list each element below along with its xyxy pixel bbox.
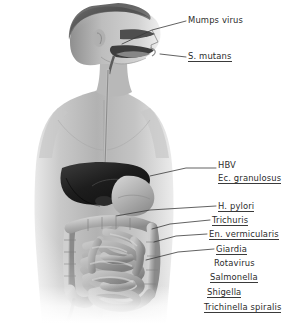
label-hbv: HBV bbox=[218, 161, 236, 169]
gallbladder bbox=[95, 196, 113, 206]
label-h-pylori: H. pylori bbox=[218, 202, 254, 212]
label-ec-granulosus: Ec. granulosus bbox=[218, 174, 281, 184]
label-s-mutans: S. mutans bbox=[188, 52, 232, 62]
label-trichuris: Trichuris bbox=[212, 216, 248, 226]
label-shigella: Shigella bbox=[207, 288, 241, 298]
anatomy-illustration bbox=[0, 0, 304, 323]
label-mumps-virus: Mumps virus bbox=[188, 16, 243, 24]
label-giardia: Giardia bbox=[216, 245, 247, 255]
label-salmonella: Salmonella bbox=[210, 273, 258, 283]
label-en-vermicularis: En. vermicularis bbox=[209, 230, 279, 240]
label-trichinella-spiralis: Trichinella spiralis bbox=[204, 303, 281, 313]
leader-s-mutans bbox=[160, 54, 186, 57]
figure-canvas: Mumps virus S. mutans HBV Ec. granulosus… bbox=[0, 0, 304, 323]
label-rotavirus: Rotavirus bbox=[214, 259, 255, 267]
small-intestine bbox=[84, 232, 142, 308]
head-profile bbox=[69, 3, 161, 74]
ear bbox=[93, 29, 106, 47]
